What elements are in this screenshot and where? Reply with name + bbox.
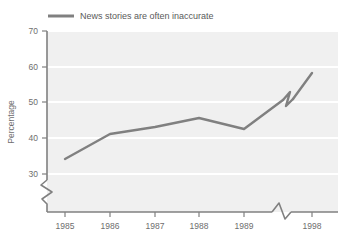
x-tick-label-1987: 1987 (146, 221, 165, 231)
chart-canvas: 70 60 50 40 30 Percentage 1985 1986 1987… (0, 0, 338, 240)
y-tick-label-70: 70 (29, 26, 39, 36)
plot-area-background (47, 31, 338, 212)
x-tick-label-1988: 1988 (190, 221, 209, 231)
line-chart: 70 60 50 40 30 Percentage 1985 1986 1987… (0, 0, 338, 240)
y-tick-label-50: 50 (29, 97, 39, 107)
y-tick-label-30: 30 (29, 169, 39, 179)
y-tick-label-60: 60 (29, 62, 39, 72)
legend-label: News stories are often inaccurate (80, 11, 214, 21)
x-tick-label-1985: 1985 (56, 221, 75, 231)
x-tick-label-1998: 1998 (303, 221, 322, 231)
legend: News stories are often inaccurate (48, 11, 214, 21)
x-tick-label-1986: 1986 (101, 221, 120, 231)
x-tick-label-1989: 1989 (235, 221, 254, 231)
y-axis-title: Percentage (6, 100, 16, 144)
y-tick-label-40: 40 (29, 133, 39, 143)
